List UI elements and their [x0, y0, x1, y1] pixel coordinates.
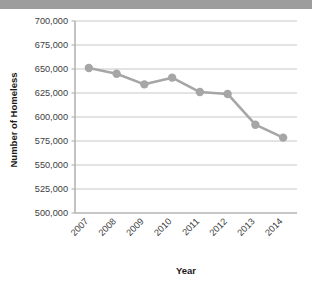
x-tick-label: 2010 — [152, 216, 174, 238]
data-point-2014 — [279, 133, 287, 141]
y-tick-label: 700,000 — [35, 16, 68, 26]
y-axis-title: Number of Homeless — [8, 72, 19, 167]
data-point-2013 — [251, 120, 259, 128]
x-tick-label: 2012 — [208, 216, 230, 238]
y-tick-label: 600,000 — [35, 112, 68, 122]
x-tick-label: 2007 — [69, 216, 91, 238]
data-point-2008 — [112, 70, 120, 78]
chart-figure: 500,000525,000550,000575,000600,000625,0… — [0, 0, 312, 286]
data-point-2009 — [140, 80, 148, 88]
data-point-2007 — [85, 64, 93, 72]
y-tick-label: 525,000 — [35, 184, 68, 194]
y-tick-label: 650,000 — [35, 64, 68, 74]
y-tick-label: 625,000 — [35, 88, 68, 98]
y-tick-label: 550,000 — [35, 160, 68, 170]
x-tick-label: 2014 — [263, 216, 285, 238]
x-tick-label: 2009 — [124, 216, 146, 238]
y-tick-label: 675,000 — [35, 40, 68, 50]
x-tick-label: 2013 — [235, 216, 257, 238]
x-tick-label: 2011 — [180, 216, 201, 237]
data-point-2012 — [223, 90, 231, 98]
data-point-2011 — [196, 88, 204, 96]
line-chart: 500,000525,000550,000575,000600,000625,0… — [0, 0, 312, 286]
y-tick-label: 500,000 — [35, 208, 68, 218]
y-tick-label: 575,000 — [35, 136, 68, 146]
x-tick-labels: 20072008200920102011201220132014 — [69, 216, 285, 238]
x-axis-title: Year — [176, 265, 196, 276]
x-tick-label: 2008 — [97, 216, 119, 238]
data-point-2010 — [168, 73, 176, 81]
y-tick-labels: 500,000525,000550,000575,000600,000625,0… — [35, 16, 68, 218]
